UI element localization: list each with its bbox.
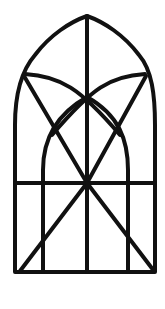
window-tracery-drawing <box>0 0 165 309</box>
gothic-window-illustration <box>0 0 165 309</box>
diagonal-lower-right <box>87 183 154 271</box>
diagonal-lower-left <box>20 183 87 271</box>
